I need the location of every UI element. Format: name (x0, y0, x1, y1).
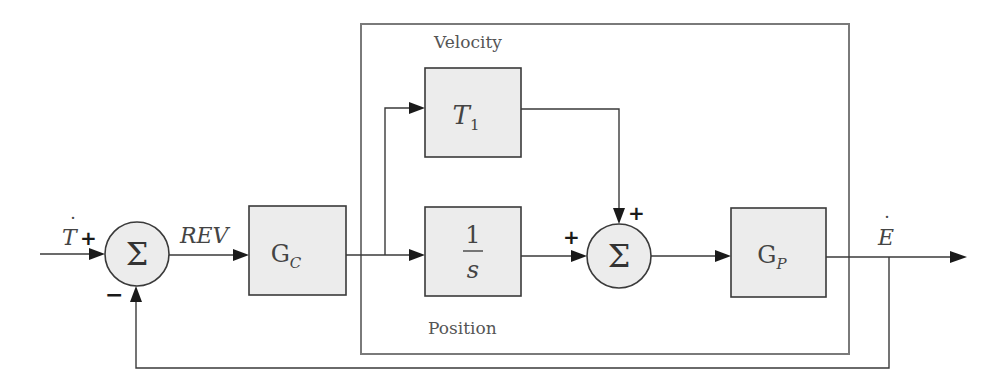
output-signal-dot: ˙ (882, 212, 892, 236)
sum2-left-arrowhead (571, 250, 587, 262)
sigma-symbol-2: Σ (608, 237, 631, 275)
error-signal-label: REV (179, 223, 231, 248)
sum2-top-arrowhead (613, 208, 625, 224)
plant-block (731, 208, 826, 297)
output-arrowhead (950, 251, 967, 263)
velocity-label: Velocity (433, 32, 502, 52)
feedback-minus-sign: − (105, 282, 123, 307)
plant-input-arrowhead (715, 250, 731, 262)
controller-block (249, 206, 346, 295)
velocity-output-wire (521, 109, 619, 216)
velocity-gain-block (425, 68, 521, 157)
velocity-branch-wire (385, 108, 416, 255)
block-diagram: Velocity Position T ˙ + Σ − REV GC T1 + … (0, 0, 997, 390)
sum2-left-plus-sign: + (563, 225, 580, 249)
sum2-top-plus-sign: + (628, 201, 645, 225)
integrator-input-arrowhead (409, 249, 425, 261)
position-label: Position (428, 318, 497, 338)
feedback-arrowhead (130, 286, 142, 302)
input-plus-sign: + (80, 226, 97, 250)
input-signal-dot: ˙ (68, 213, 78, 237)
integrator-numerator: 1 (465, 221, 480, 249)
integrator-denominator: s (467, 256, 479, 284)
error-arrowhead (233, 249, 249, 261)
sigma-symbol-1: Σ (126, 235, 149, 273)
velocity-input-arrowhead (409, 102, 425, 114)
